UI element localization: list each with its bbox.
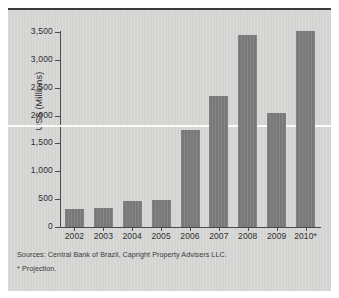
y-tick-label: 500 (38, 194, 53, 203)
x-tick-label: 2002 (60, 231, 89, 241)
y-axis-title: US$ (Millions) (34, 56, 44, 146)
y-tick: 1,500 (0, 138, 53, 147)
source-note: Sources: Central Bank of Brazil, Caprigh… (17, 250, 227, 259)
y-tick-mark (55, 227, 60, 228)
y-tick-label: 0 (48, 222, 53, 231)
x-tick-label: 2005 (147, 231, 176, 241)
bar (123, 201, 142, 227)
projection-note: * Projection. (17, 264, 56, 273)
y-tick: 500 (0, 194, 53, 203)
chart-figure: US$ (Millions) 05001,0001,5002,0002,5003… (0, 0, 339, 298)
y-tick-label: 3,000 (31, 55, 53, 64)
bar (94, 208, 113, 228)
y-tick-label: 1,000 (31, 166, 53, 175)
x-tick-label: 2006 (176, 231, 205, 241)
bar (296, 31, 315, 227)
y-tick: 1,000 (0, 166, 53, 175)
x-tick-label: 2007 (204, 231, 233, 241)
y-tick-label: 3,500 (31, 27, 53, 36)
y-tick: 2,500 (0, 83, 53, 92)
x-tick-label: 2008 (233, 231, 262, 241)
bar (209, 96, 228, 227)
x-tick-label: 2004 (118, 231, 147, 241)
x-tick-label: 2009 (262, 231, 291, 241)
bar (181, 130, 200, 227)
y-tick: 3,500 (0, 27, 53, 36)
bar (65, 209, 84, 227)
y-tick: 2,000 (0, 111, 53, 120)
y-tick-label: 1,500 (31, 138, 53, 147)
bar (267, 113, 286, 227)
bar (152, 200, 171, 227)
x-tick-label: 2010* (291, 231, 320, 241)
y-tick: 3,000 (0, 55, 53, 64)
bar (238, 35, 257, 227)
x-tick-label: 2003 (89, 231, 118, 241)
y-tick-label: 2,500 (31, 83, 53, 92)
y-tick: 0 (0, 222, 53, 231)
y-tick-label: 2,000 (31, 111, 53, 120)
plot-area (60, 32, 320, 227)
